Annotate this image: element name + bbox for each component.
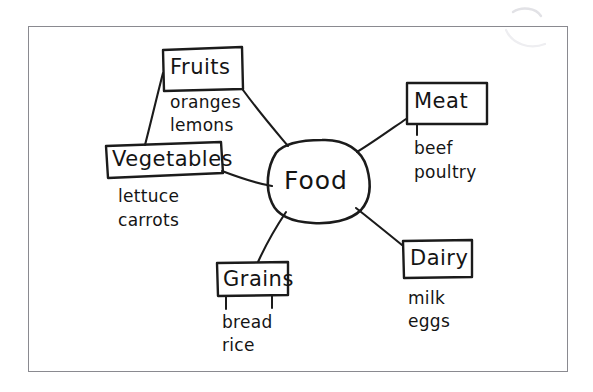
branch-label-dairy[interactable]: Dairy	[410, 246, 468, 270]
branch-item-dairy-1: eggs	[408, 311, 450, 331]
branch-label-fruits[interactable]: Fruits	[170, 55, 231, 79]
branch-item-grains-1: rice	[222, 335, 255, 355]
branch-item-dairy-0: milk	[408, 288, 445, 308]
center-node-label[interactable]: Food	[284, 166, 348, 195]
branch-item-vegetables-0: lettuce	[118, 186, 179, 206]
connector-food-grains	[258, 212, 286, 262]
branch-item-fruits-0: oranges	[170, 92, 241, 112]
ink-layer	[0, 0, 593, 392]
connector-food-dairy	[356, 208, 402, 245]
branch-item-grains-0: bread	[222, 312, 273, 332]
connector-fruits-vegetables	[145, 73, 163, 145]
branch-item-meat-0: beef	[414, 138, 453, 158]
branch-item-meat-1: poultry	[414, 162, 477, 182]
connector-food-fruits	[243, 90, 288, 146]
branch-item-vegetables-1: carrots	[118, 210, 179, 230]
branch-label-vegetables[interactable]: Vegetables	[112, 147, 233, 171]
branch-item-fruits-1: lemons	[170, 115, 234, 135]
connector-food-meat	[357, 119, 406, 152]
connector-food-vegetables	[222, 171, 272, 186]
branch-label-meat[interactable]: Meat	[414, 89, 468, 113]
branch-label-grains[interactable]: Grains	[223, 267, 294, 291]
diagram-canvas: Food Fruits oranges lemons Vegetables le…	[0, 0, 593, 392]
